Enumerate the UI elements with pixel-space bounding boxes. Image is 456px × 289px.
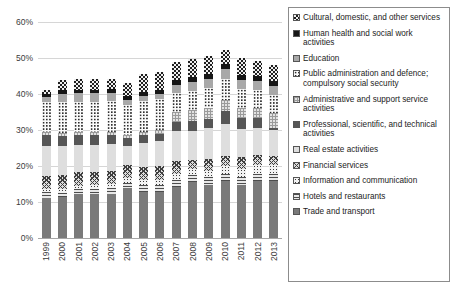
bar-segment[interactable] xyxy=(269,130,278,156)
bar-segment[interactable] xyxy=(237,185,246,238)
stacked-bar[interactable] xyxy=(58,80,67,238)
stacked-bar[interactable] xyxy=(204,56,213,238)
bar-segment[interactable] xyxy=(74,79,83,90)
bar-segment[interactable] xyxy=(204,108,213,118)
bar-segment[interactable] xyxy=(204,56,213,74)
bar-segment[interactable] xyxy=(172,93,181,112)
bar-segment[interactable] xyxy=(269,113,278,127)
bar-segment[interactable] xyxy=(139,143,148,168)
bar-segment[interactable] xyxy=(123,146,132,165)
stacked-bar[interactable] xyxy=(172,62,181,238)
legend-item[interactable]: Human health and social work activities xyxy=(293,29,445,48)
bar-segment[interactable] xyxy=(253,118,262,128)
bar-segment[interactable] xyxy=(237,118,246,128)
bar-segment[interactable] xyxy=(139,192,148,238)
bar-segment[interactable] xyxy=(107,101,116,131)
bar-segment[interactable] xyxy=(123,188,132,238)
bar-segment[interactable] xyxy=(188,160,197,169)
bar-segment[interactable] xyxy=(204,128,213,159)
bar-segment[interactable] xyxy=(221,69,230,78)
bar-segment[interactable] xyxy=(90,194,99,238)
bar-segment[interactable] xyxy=(172,187,181,238)
bar-segment[interactable] xyxy=(253,165,262,174)
bar-segment[interactable] xyxy=(188,121,197,131)
bar-segment[interactable] xyxy=(204,88,213,108)
bar-segment[interactable] xyxy=(253,81,262,90)
bar-segment[interactable] xyxy=(139,74,148,92)
bar-segment[interactable] xyxy=(188,91,197,110)
bar-segment[interactable] xyxy=(139,135,148,142)
stacked-bar[interactable] xyxy=(155,72,164,238)
bar-segment[interactable] xyxy=(74,172,83,186)
bar-segment[interactable] xyxy=(172,161,181,174)
bar-segment[interactable] xyxy=(188,131,197,159)
stacked-bar[interactable] xyxy=(123,83,132,238)
bar-segment[interactable] xyxy=(253,108,262,118)
bar-segment[interactable] xyxy=(139,167,148,180)
bar-segment[interactable] xyxy=(42,146,51,176)
bar-segment[interactable] xyxy=(90,79,99,90)
legend-item[interactable]: Trade and transport xyxy=(293,207,445,217)
bar-segment[interactable] xyxy=(204,159,213,171)
bar-segment[interactable] xyxy=(58,94,67,102)
bar-segment[interactable] xyxy=(221,124,230,156)
bar-segment[interactable] xyxy=(172,180,181,187)
bar-segment[interactable] xyxy=(204,79,213,88)
bar-segment[interactable] xyxy=(204,177,213,185)
bar-segment[interactable] xyxy=(107,93,116,101)
bar-segment[interactable] xyxy=(58,146,67,175)
bar-segment[interactable] xyxy=(74,145,83,172)
legend-item[interactable]: Education xyxy=(293,54,445,64)
stacked-bar[interactable] xyxy=(42,90,51,238)
bar-segment[interactable] xyxy=(155,192,164,238)
bar-segment[interactable] xyxy=(269,174,278,181)
legend-item[interactable]: Cultural, domestic, and other services xyxy=(293,13,445,23)
bar-segment[interactable] xyxy=(237,157,246,169)
bar-segment[interactable] xyxy=(155,166,164,180)
bar-segment[interactable] xyxy=(107,194,116,238)
bar-segment[interactable] xyxy=(42,176,51,189)
bar-segment[interactable] xyxy=(74,93,83,101)
bar-segment[interactable] xyxy=(253,128,262,155)
bar-segment[interactable] xyxy=(253,155,262,165)
bar-segment[interactable] xyxy=(237,58,246,75)
bar-segment[interactable] xyxy=(74,194,83,238)
bar-segment[interactable] xyxy=(123,165,132,179)
bar-segment[interactable] xyxy=(188,182,197,238)
bar-segment[interactable] xyxy=(74,102,83,132)
bar-segment[interactable] xyxy=(139,101,148,132)
bar-segment[interactable] xyxy=(269,86,278,95)
bar-segment[interactable] xyxy=(155,99,164,130)
bar-segment[interactable] xyxy=(188,175,197,182)
legend-item[interactable]: Administrative and support service activ… xyxy=(293,95,445,114)
bar-segment[interactable] xyxy=(58,175,67,189)
stacked-bar[interactable] xyxy=(139,74,148,238)
bar-segment[interactable] xyxy=(269,165,278,174)
bar-segment[interactable] xyxy=(107,79,116,90)
bar-segment[interactable] xyxy=(237,177,246,185)
bar-segment[interactable] xyxy=(90,172,99,185)
bar-segment[interactable] xyxy=(269,181,278,238)
bar-segment[interactable] xyxy=(172,85,181,93)
bar-segment[interactable] xyxy=(221,79,230,101)
legend-item[interactable]: Information and communication xyxy=(293,176,445,186)
bar-segment[interactable] xyxy=(58,102,67,133)
bar-segment[interactable] xyxy=(107,144,116,171)
stacked-bar[interactable] xyxy=(269,65,278,238)
bar-segment[interactable] xyxy=(107,171,116,184)
bar-segment[interactable] xyxy=(237,89,246,109)
bar-segment[interactable] xyxy=(204,185,213,238)
bar-segment[interactable] xyxy=(172,62,181,80)
bar-segment[interactable] xyxy=(253,174,262,181)
bar-segment[interactable] xyxy=(269,156,278,165)
bar-segment[interactable] xyxy=(188,82,197,91)
bar-segment[interactable] xyxy=(204,119,213,129)
bar-segment[interactable] xyxy=(269,65,278,81)
bar-segment[interactable] xyxy=(123,83,132,96)
legend-item[interactable]: Professional, scientific, and technical … xyxy=(293,120,445,139)
bar-segment[interactable] xyxy=(221,174,230,182)
bar-segment[interactable] xyxy=(74,135,83,145)
bar-segment[interactable] xyxy=(253,90,262,108)
legend-item[interactable]: Public administration and defence; compu… xyxy=(293,69,445,88)
bar-segment[interactable] xyxy=(237,108,246,118)
